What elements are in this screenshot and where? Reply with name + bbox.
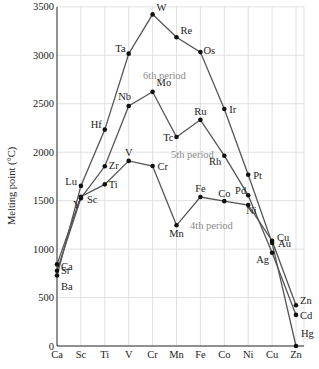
data-point <box>126 104 131 109</box>
element-label: W <box>157 2 167 13</box>
period-6-label: 6th period <box>143 70 187 81</box>
x-tick: Cr <box>147 349 158 360</box>
data-point <box>198 118 203 123</box>
x-tick: Ti <box>100 349 109 360</box>
data-point <box>270 250 275 255</box>
data-point <box>103 164 108 169</box>
element-label: Fe <box>195 183 206 194</box>
element-label: Sr <box>61 265 71 276</box>
data-point <box>294 344 299 349</box>
element-label: Ti <box>109 179 118 190</box>
y-tick-labels: 0500100015002000250030003500 <box>33 1 54 351</box>
element-label: Tc <box>163 132 174 143</box>
data-point <box>222 153 227 158</box>
x-tick: Mn <box>169 349 184 360</box>
element-label: Ni <box>246 205 257 216</box>
period-5-label: 5th period <box>171 149 215 160</box>
data-point <box>246 193 251 198</box>
y-tick: 3000 <box>33 50 54 61</box>
grid <box>57 7 304 346</box>
element-label: Ba <box>61 281 73 292</box>
element-labels: CaScTiVCrMnFeCoNiCuZnSrYZrNbMoTcRuRhPdAg… <box>61 2 315 339</box>
y-tick: 1000 <box>33 244 54 255</box>
x-tick: Co <box>218 349 230 360</box>
element-label: Pt <box>253 170 262 181</box>
element-label: Pd <box>235 185 247 196</box>
y-tick: 500 <box>38 292 54 303</box>
data-point <box>294 303 299 308</box>
data-point <box>150 90 155 95</box>
element-label: Nb <box>118 91 131 102</box>
data-point <box>126 159 131 164</box>
x-tick: Cu <box>266 349 279 360</box>
data-point <box>198 50 203 55</box>
data-point <box>79 184 84 189</box>
y-tick: 1500 <box>33 195 54 206</box>
x-tick: Fe <box>195 349 206 360</box>
element-label: Zr <box>109 160 119 171</box>
axes <box>57 7 304 346</box>
element-label: Re <box>181 25 193 36</box>
x-tick: V <box>125 349 133 360</box>
melting-point-chart: 0500100015002000250030003500 CaScTiVCrMn… <box>0 0 319 369</box>
data-point <box>222 107 227 112</box>
data-point <box>55 268 60 273</box>
element-label: Ta <box>115 43 126 54</box>
data-point <box>246 172 251 177</box>
data-point <box>174 223 179 228</box>
element-label: Ru <box>194 106 207 117</box>
element-label: Mn <box>169 228 184 239</box>
x-tick: Sc <box>76 349 87 360</box>
data-point <box>103 127 108 132</box>
y-tick: 2000 <box>33 147 54 158</box>
element-label: Y <box>73 199 81 210</box>
data-point <box>294 313 299 318</box>
data-point <box>150 12 155 17</box>
element-label: Sc <box>87 194 98 205</box>
element-label: Cd <box>300 310 313 321</box>
element-label: Cr <box>158 161 169 172</box>
element-label: V <box>125 147 133 158</box>
data-point <box>198 195 203 200</box>
element-label: Co <box>218 188 230 199</box>
element-label: Hg <box>301 328 315 339</box>
element-label: Zn <box>300 295 312 306</box>
data-point <box>150 164 155 169</box>
x-tick: Zn <box>290 349 302 360</box>
data-point <box>126 51 131 56</box>
y-tick: 2500 <box>33 98 54 109</box>
data-point <box>55 262 60 267</box>
element-label: Lu <box>65 176 77 187</box>
data-point <box>270 241 275 246</box>
y-axis-label: Melting point (°C) <box>6 146 18 225</box>
data-point <box>174 35 179 40</box>
data-point <box>222 199 227 204</box>
y-tick: 3500 <box>33 1 54 12</box>
element-label: Hf <box>91 119 103 130</box>
element-label: Ir <box>229 104 236 115</box>
element-label: Os <box>203 45 215 56</box>
data-point <box>174 135 179 140</box>
element-label: Ag <box>256 254 270 265</box>
data-point <box>103 182 108 187</box>
x-tick: Ni <box>243 349 254 360</box>
data-point <box>55 273 60 278</box>
element-label: Au <box>278 238 292 249</box>
x-tick: Ca <box>51 349 63 360</box>
x-tick-labels: CaScTiVCrMnFeCoNiCuZn <box>51 349 302 360</box>
period-4-label: 4th period <box>190 220 234 231</box>
